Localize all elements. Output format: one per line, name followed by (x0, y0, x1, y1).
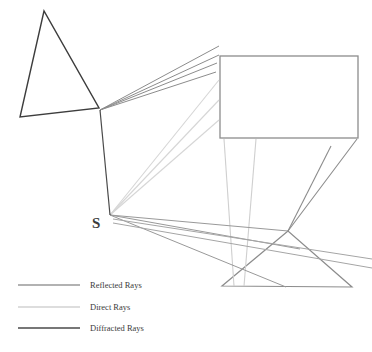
diffracted-ray-edge (100, 110, 110, 215)
reflected-ray-apex-2 (288, 139, 357, 231)
reflected-ray-up-4 (100, 72, 216, 110)
reflected-ground-ray-2 (113, 223, 372, 268)
direct-ray-1 (110, 80, 219, 215)
direct-ray-3 (110, 120, 219, 215)
right-rectangle-obstacle (220, 56, 358, 138)
reflected-ray-up-1 (100, 46, 219, 110)
legend-label-diffracted: Diffracted Rays (90, 323, 144, 333)
left-triangle-obstacle (20, 11, 99, 117)
legend-label-reflected: Reflected Rays (90, 280, 142, 290)
direct-ray-2 (110, 100, 219, 215)
obstacles-layer (20, 11, 358, 287)
reflected-rays-layer (100, 46, 372, 287)
reflected-ray-up-3 (100, 63, 217, 110)
reflected-ray-apex-1 (288, 146, 331, 231)
bottom-triangle-obstacle (222, 231, 352, 287)
source-label: S (92, 215, 100, 231)
ray-diagram-canvas: S Reflected Rays Direct Rays Diffracted … (0, 0, 372, 352)
diffracted-rays-layer (100, 110, 110, 215)
direct-rays-layer (110, 80, 256, 286)
reflected-ray-down-3 (110, 215, 286, 287)
reflected-ground-ray-1 (113, 219, 372, 259)
legend-label-direct: Direct Rays (90, 302, 130, 312)
legend: Reflected Rays Direct Rays Diffracted Ra… (18, 280, 144, 333)
direct-ray-vertical-right (244, 139, 256, 286)
